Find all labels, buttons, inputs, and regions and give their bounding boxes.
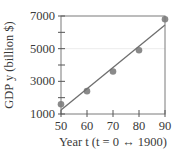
x-tick-label: 60 [81, 119, 94, 133]
y-tick-label: 7000 [30, 9, 55, 23]
plot-area [58, 16, 169, 110]
x-tick-label: 80 [133, 119, 146, 133]
regression-line [61, 25, 165, 110]
x-tick-label: 50 [55, 119, 68, 133]
y-tick-label: 1000 [30, 107, 55, 121]
x-axis-label: Year t (t = 0 ↔ 1900) [59, 135, 167, 149]
gdp-chart: 10003000500070005060708090 Year t (t = 0… [0, 0, 180, 155]
axes: 10003000500070005060708090 [30, 9, 171, 133]
y-tick-label: 3000 [30, 74, 55, 88]
y-axis-label: GDP y (billion $) [2, 21, 16, 108]
x-tick-label: 90 [159, 119, 172, 133]
plot-frame [61, 16, 165, 114]
x-tick-label: 70 [107, 119, 120, 133]
y-tick-label: 5000 [30, 42, 55, 56]
